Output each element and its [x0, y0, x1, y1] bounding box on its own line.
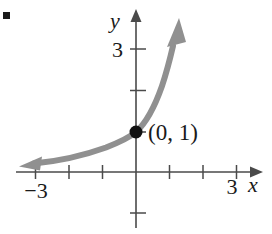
point-marker-0-1	[130, 126, 143, 139]
x-axis-label: x	[247, 172, 258, 197]
graph-canvas: y x 3 −3 3 (0, 1)	[0, 0, 272, 234]
y-axis-label: y	[108, 8, 120, 33]
y-axis-arrowhead-icon	[131, 9, 142, 22]
curve-left-arrowhead-icon	[19, 157, 42, 171]
exponential-graph-figure: y x 3 −3 3 (0, 1)	[0, 0, 272, 234]
exponential-curve	[34, 46, 173, 164]
x-tick-label-3: 3	[227, 174, 238, 199]
y-tick-label-3: 3	[112, 37, 123, 62]
curve-top-arrowhead-icon	[167, 18, 186, 47]
bullet-marker-icon	[3, 12, 10, 19]
point-label-0-1: (0, 1)	[148, 120, 198, 145]
x-tick-label-neg3: −3	[24, 178, 47, 203]
